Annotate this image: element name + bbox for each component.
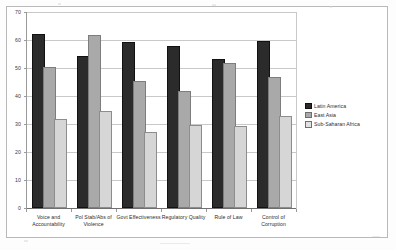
y-axis-tick-label: 20 [7, 149, 21, 155]
gridline [26, 68, 296, 69]
y-axis-tick-label: 70 [7, 9, 21, 15]
y-axis-tick-label: 10 [7, 177, 21, 183]
bar-group [77, 12, 110, 208]
scan-artifact [160, 243, 190, 244]
y-axis-line [26, 12, 27, 209]
y-axis-tick-label: 0 [7, 205, 21, 211]
x-axis-category-label: Rule of Law [204, 214, 253, 221]
bar-group [32, 12, 65, 208]
bar [54, 119, 67, 208]
gridline [26, 40, 296, 41]
x-axis-category-label: Regulatory Quality [159, 214, 208, 221]
bar-group [167, 12, 200, 208]
bar [279, 116, 292, 208]
x-axis-tick [26, 209, 27, 212]
x-axis-tick [116, 209, 117, 212]
scan-artifact [58, 3, 61, 5]
y-axis-tick-label: 60 [7, 37, 21, 43]
x-axis-category-label: Control of Corruption [249, 214, 298, 227]
legend-item: Sub-Saharan Africa [305, 121, 360, 127]
bar [189, 125, 202, 208]
legend-swatch-icon [305, 103, 312, 110]
x-axis-tick [71, 209, 72, 212]
x-axis-tick [206, 209, 207, 212]
scan-artifact [212, 4, 216, 6]
bar [234, 126, 247, 208]
bar [144, 132, 157, 208]
scan-artifact [24, 240, 28, 242]
x-axis-category-label: Pol Stab/Abs of Violence [69, 214, 118, 227]
bar-group [212, 12, 245, 208]
x-axis-tick [161, 209, 162, 212]
y-axis-tick-label: 40 [7, 93, 21, 99]
legend-label: Sub-Saharan Africa [314, 121, 360, 127]
legend-item: East Asia [305, 112, 360, 118]
y-axis-tick-label: 30 [7, 121, 21, 127]
x-axis-tick [296, 209, 297, 212]
legend-label: Latin America [314, 103, 346, 109]
x-axis-tick [251, 209, 252, 212]
legend-label: East Asia [314, 112, 336, 118]
bar-group [257, 12, 290, 208]
bar-group [122, 12, 155, 208]
scan-artifact [372, 236, 380, 237]
gridline [26, 96, 296, 97]
scan-artifact [330, 6, 332, 8]
grouped-bar-chart: 010203040506070 Voice and Accountability… [0, 0, 396, 250]
y-axis-tick-label: 50 [7, 65, 21, 71]
plot-right-edge [296, 12, 297, 209]
legend-swatch-icon [305, 112, 312, 119]
chart-legend: Latin AmericaEast AsiaSub-Saharan Africa [305, 103, 360, 131]
x-axis-category-label: Govt Effectiveness [114, 214, 163, 221]
gridline [26, 12, 296, 13]
bar [99, 111, 112, 208]
legend-item: Latin America [305, 103, 360, 109]
legend-swatch-icon [305, 121, 312, 128]
x-axis-category-label: Voice and Accountability [24, 214, 73, 227]
